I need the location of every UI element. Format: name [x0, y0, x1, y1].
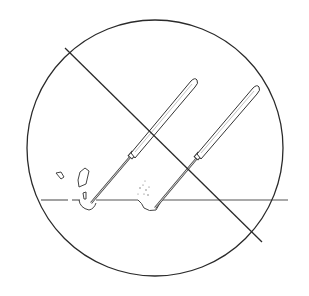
debris-fragments [56, 168, 96, 210]
prohibition-illustration [0, 0, 309, 296]
probe-tool-right [155, 86, 260, 208]
dust-particle [145, 181, 146, 182]
probe-needle-highlight [91, 156, 131, 203]
probe-handle-shading [201, 91, 254, 153]
probe-handle [197, 86, 260, 159]
dust-particle [139, 187, 140, 188]
illustration-canvas [0, 0, 309, 296]
probe-tool-left [91, 79, 198, 203]
dust-particle [147, 194, 148, 195]
probe-handle-shading [135, 84, 192, 152]
debris-piece [83, 192, 86, 199]
dust-particle [143, 193, 144, 194]
debris-piece [78, 168, 89, 187]
debris-piece [56, 172, 64, 179]
prohibition-circle [27, 20, 283, 276]
dust-particle [145, 189, 146, 190]
prohibition-slash [65, 48, 262, 242]
dust-particle [142, 184, 143, 185]
dust-particles [138, 181, 150, 196]
dust-particle [138, 194, 139, 195]
dust-particle [148, 186, 149, 187]
